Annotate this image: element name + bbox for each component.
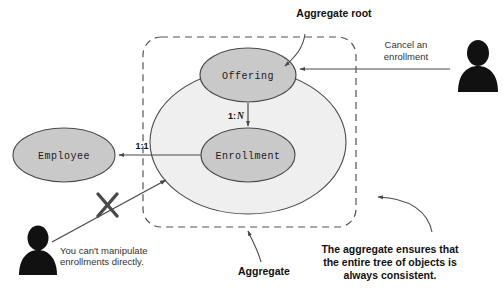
x-cross-mark-icon <box>98 194 117 216</box>
callout-no-manipulate-line1: You can't manipulate <box>60 245 148 256</box>
callout-cancel-enrollment-line1: Cancel an <box>385 39 428 50</box>
edge-label-one-to-n-multiplicity: N <box>236 111 245 121</box>
callout-consistency-line3: always consistent. <box>344 269 437 281</box>
node-offering-label: Offering <box>222 71 274 82</box>
node-offering[interactable]: Offering <box>200 48 296 102</box>
edge-label-one-to-n-prefix: 1: <box>228 111 236 121</box>
node-enrollment-label: Enrollment <box>215 151 280 162</box>
callout-consistency-line2: the entire tree of objects is <box>323 256 457 268</box>
node-employee[interactable]: Employee <box>13 128 115 182</box>
diagram-canvas: Offering Enrollment Employee 1: N 1:1 Ag… <box>0 0 503 296</box>
aggregate-diagram: Offering Enrollment Employee 1: N 1:1 Ag… <box>0 0 503 296</box>
callout-consistency-line1: The aggregate ensures that <box>321 243 459 255</box>
actor-left-user-icon <box>19 226 57 276</box>
callout-aggregate: Aggregate <box>238 231 290 277</box>
callout-consistency: The aggregate ensures that the entire tr… <box>321 197 459 281</box>
callout-cancel-enrollment-line2: enrollment <box>384 51 429 62</box>
callout-no-manipulate: You can't manipulate enrollments directl… <box>52 180 166 267</box>
actor-right-user-icon <box>458 40 498 92</box>
node-employee-label: Employee <box>38 151 90 162</box>
node-enrollment[interactable]: Enrollment <box>201 128 295 182</box>
edge-label-one-to-one: 1:1 <box>135 141 148 151</box>
callout-aggregate-label: Aggregate <box>238 265 290 277</box>
callout-cancel-enrollment: Cancel an enrollment <box>300 39 450 69</box>
callout-no-manipulate-line2: enrollments directly. <box>60 256 144 267</box>
callout-aggregate-root-label: Aggregate root <box>296 7 372 19</box>
